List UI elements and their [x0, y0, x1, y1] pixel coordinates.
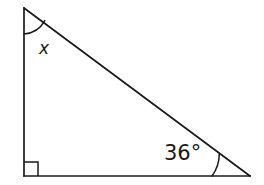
bottom-right-angle-arc-icon	[212, 154, 219, 176]
triangle-hypotenuse	[24, 8, 250, 176]
triangle-drawing	[0, 0, 264, 185]
bottom-right-angle-label: 36°	[164, 143, 201, 164]
right-angle-square-icon	[24, 162, 38, 176]
top-angle-arc-icon	[24, 21, 45, 34]
top-angle-label: x	[39, 40, 49, 57]
triangle-figure: x 36°	[0, 0, 264, 185]
